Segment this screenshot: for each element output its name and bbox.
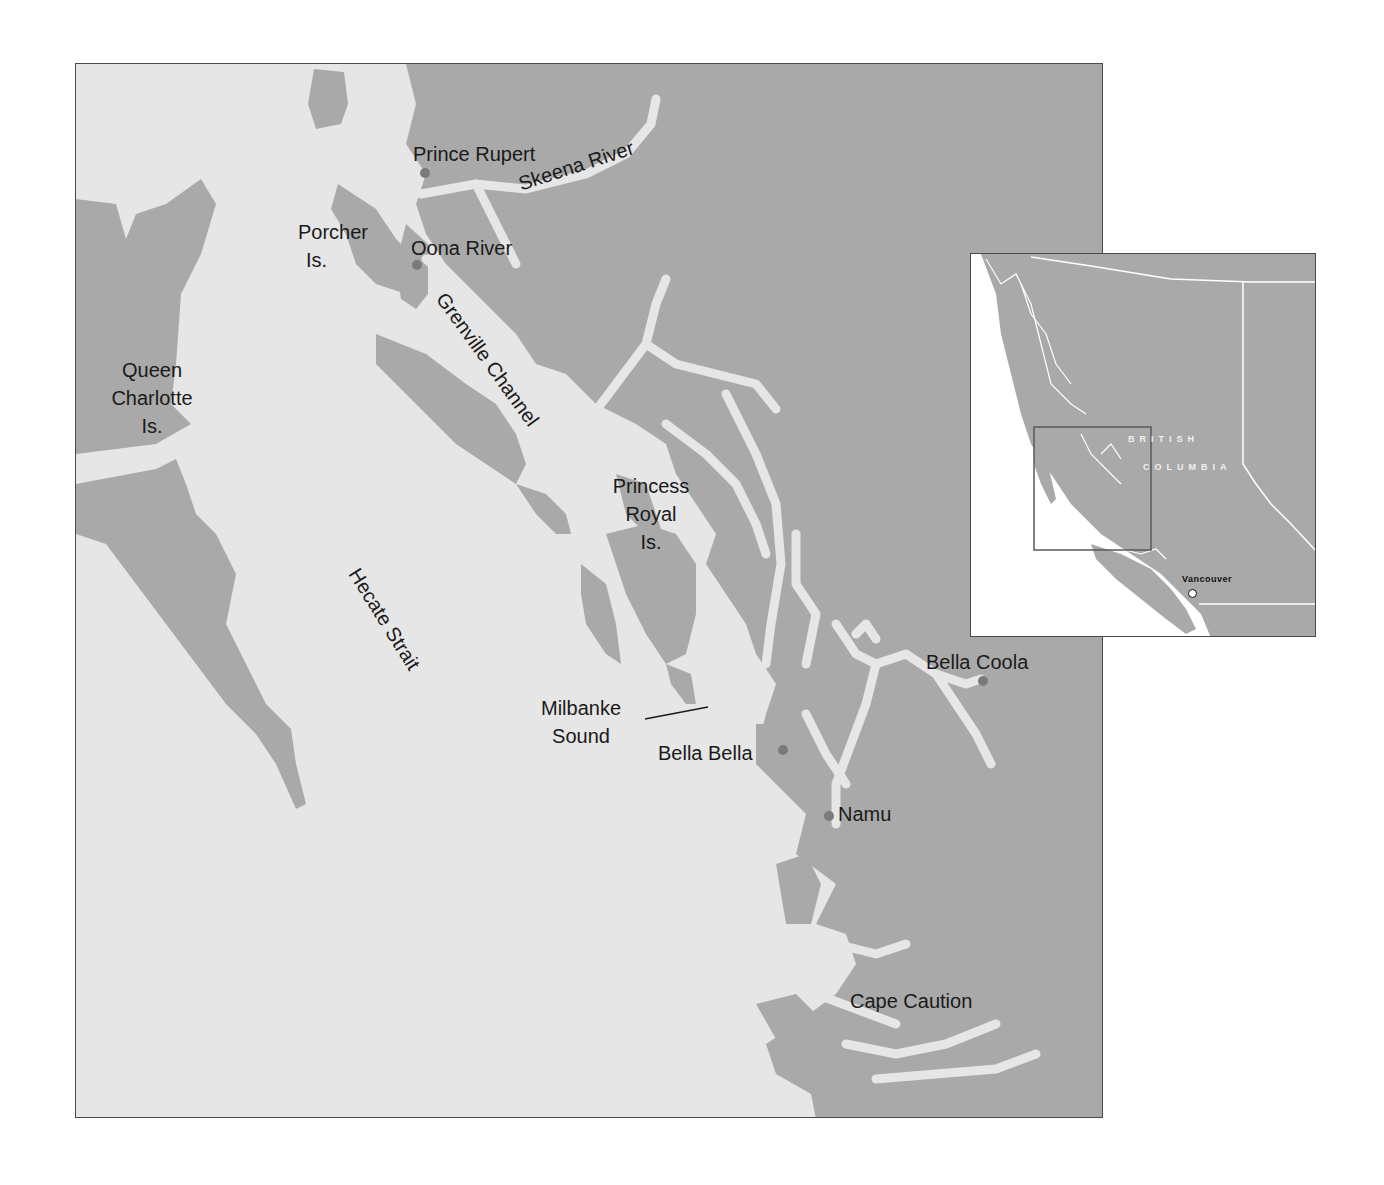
- milbanke-pointer-line: [645, 707, 708, 719]
- label-porcher-island: Porcher Is.: [298, 218, 388, 274]
- main-map: Prince Rupert Oona River Bella Coola Bel…: [75, 63, 1103, 1118]
- coastline-shapes: [76, 64, 1103, 1118]
- label-namu: Namu: [838, 800, 891, 828]
- inset-label-vancouver: Vancouver: [1182, 574, 1232, 584]
- label-prince-rupert: Prince Rupert: [413, 140, 535, 168]
- label-cape-caution: Cape Caution: [850, 987, 972, 1015]
- prince-rupert-dot: [420, 168, 430, 178]
- label-princess-royal-island: Princess Royal Is.: [601, 472, 701, 556]
- namu-dot: [824, 811, 834, 821]
- bella-bella-dot: [778, 745, 788, 755]
- inset-locator-map: BRITISH COLUMBIA Vancouver: [970, 253, 1316, 637]
- label-oona-river: Oona River: [411, 234, 512, 262]
- bella-coola-dot: [978, 676, 988, 686]
- inset-label-columbia: COLUMBIA: [1143, 462, 1232, 472]
- label-queen-charlotte-islands: Queen Charlotte Is.: [90, 356, 214, 440]
- label-milbanke-sound: Milbanke Sound: [526, 694, 636, 750]
- label-bella-bella: Bella Bella: [658, 739, 753, 767]
- vancouver-dot: [1188, 589, 1197, 598]
- inset-shapes: [971, 254, 1316, 637]
- inset-label-british: BRITISH: [1128, 434, 1199, 444]
- label-bella-coola: Bella Coola: [926, 648, 1028, 676]
